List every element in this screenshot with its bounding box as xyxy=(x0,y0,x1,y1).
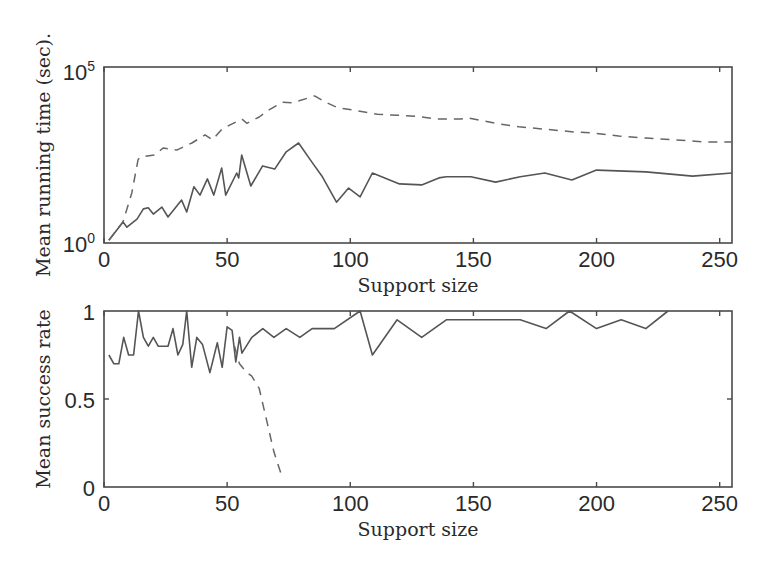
top-x-axis-label: Support size xyxy=(358,274,479,296)
series-solid-line xyxy=(109,311,668,373)
x-tick-label: 0 xyxy=(98,491,110,516)
bottom-plot-frame xyxy=(104,311,732,487)
x-tick-label: 150 xyxy=(455,247,492,272)
bottom-y-axis-label: Mean success rate xyxy=(32,309,54,489)
x-tick-label: 150 xyxy=(455,491,492,516)
top-series xyxy=(109,96,732,240)
x-tick-label: 250 xyxy=(701,247,738,272)
top-x-tick-labels: 050100150200250 xyxy=(98,247,738,272)
figure: 105 100 050100150200250 Support size Mea… xyxy=(0,0,765,567)
bottom-ytick-1: 1 xyxy=(83,300,95,325)
top-x-ticks xyxy=(104,67,720,243)
series-solid-line xyxy=(109,143,732,240)
success-rate-plot: 1 0.5 0 050100150200250 Support size Mea… xyxy=(32,300,738,540)
bottom-series xyxy=(109,311,668,478)
running-time-plot: 105 100 050100150200250 Support size Mea… xyxy=(32,33,738,296)
top-ytick-10e0: 100 xyxy=(63,230,95,257)
top-ytick-10e5: 105 xyxy=(63,58,95,85)
bottom-x-tick-labels: 050100150200250 xyxy=(98,491,738,516)
bottom-ytick-0.5: 0.5 xyxy=(64,388,95,413)
bottom-x-axis-label: Support size xyxy=(358,518,479,540)
x-tick-label: 100 xyxy=(332,247,369,272)
bottom-ticks xyxy=(104,311,732,487)
x-tick-label: 200 xyxy=(578,247,615,272)
series-dashed-line xyxy=(109,96,732,240)
x-tick-label: 0 xyxy=(98,247,110,272)
x-tick-label: 50 xyxy=(215,491,239,516)
series-dashed-line xyxy=(235,346,283,478)
bottom-ytick-0: 0 xyxy=(83,476,95,501)
top-plot-frame xyxy=(104,67,732,243)
x-tick-label: 200 xyxy=(578,491,615,516)
x-tick-label: 250 xyxy=(701,491,738,516)
x-tick-label: 100 xyxy=(332,491,369,516)
top-y-axis-label: Mean running time (sec). xyxy=(32,33,54,277)
x-tick-label: 50 xyxy=(215,247,239,272)
